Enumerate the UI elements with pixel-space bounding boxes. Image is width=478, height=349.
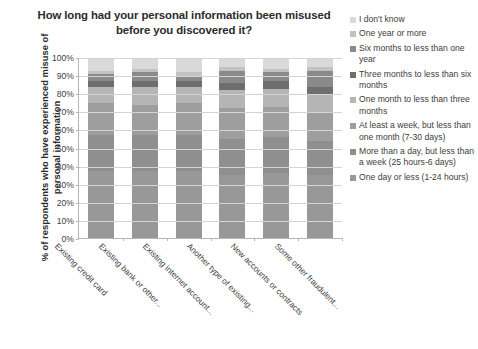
legend-swatch-icon <box>350 123 356 129</box>
legend-label: I don't know <box>359 14 405 25</box>
bar-segment[interactable] <box>307 94 333 112</box>
x-axis-tick-labels: Existing credit cardExisting bank or oth… <box>78 241 342 341</box>
bar-segment[interactable] <box>132 171 158 238</box>
gridline <box>79 58 342 59</box>
y-axis-tick-mark <box>76 221 79 222</box>
legend-swatch-icon <box>350 17 356 23</box>
chart-legend: I don't knowOne year or moreSix months t… <box>350 14 476 186</box>
y-axis-tick-label: 90% <box>57 71 74 81</box>
gridline <box>79 94 342 95</box>
x-axis-tick-mark <box>342 238 343 241</box>
legend-label: One year or more <box>359 28 426 39</box>
gridline <box>79 167 342 168</box>
bar-segment[interactable] <box>307 112 333 141</box>
legend-label: More than a day, but less than a week (2… <box>359 146 476 169</box>
gridline <box>79 149 342 150</box>
legend-swatch-icon <box>350 31 356 37</box>
plot-area <box>78 58 342 239</box>
legend-label: Three months to less than six months <box>359 69 476 92</box>
bar-segment[interactable] <box>307 71 333 87</box>
bar-segment[interactable] <box>219 139 245 175</box>
bar-segment[interactable] <box>88 58 114 71</box>
y-axis-tick-label: 10% <box>57 216 74 226</box>
y-axis-tick-mark <box>76 149 79 150</box>
legend-swatch-icon <box>350 97 356 103</box>
bar-segment[interactable] <box>176 58 202 72</box>
gridline <box>79 112 342 113</box>
y-axis-tick-mark <box>76 94 79 95</box>
bar-segment[interactable] <box>263 89 289 107</box>
y-axis-tick-label: 50% <box>57 144 74 154</box>
legend-label: One month to less than three months <box>359 94 476 117</box>
y-axis-tick-labels: 100%90%80%70%60%50%40%30%20%10%0% <box>46 58 74 239</box>
bar-segment[interactable] <box>219 90 245 108</box>
legend-swatch-icon <box>350 175 356 181</box>
y-axis-tick-label: 80% <box>57 89 74 99</box>
y-axis-tick-label: 0% <box>62 234 74 244</box>
bar-segment[interactable] <box>263 81 289 88</box>
y-axis-tick-label: 100% <box>52 53 74 63</box>
legend-item[interactable]: Three months to less than six months <box>350 69 476 92</box>
y-axis-tick-mark <box>76 239 79 240</box>
bar-segment[interactable] <box>263 107 289 138</box>
bar-segment[interactable] <box>132 87 158 105</box>
legend-swatch-icon <box>350 149 356 155</box>
legend-item[interactable]: At least a week, but less than one month… <box>350 120 476 143</box>
x-axis-tick-label: New accounts or contracts <box>229 241 305 317</box>
bar-segment[interactable] <box>263 137 289 173</box>
y-axis-tick-mark <box>76 185 79 186</box>
bar-segment[interactable] <box>219 83 245 90</box>
legend-item[interactable]: One year or more <box>350 28 476 39</box>
bar-segment[interactable] <box>176 171 202 238</box>
y-axis-tick-mark <box>76 76 79 77</box>
gridline <box>79 203 342 204</box>
y-axis-tick-mark <box>76 167 79 168</box>
legend-swatch-icon <box>350 72 356 78</box>
legend-swatch-icon <box>350 46 356 52</box>
gridline <box>79 221 342 222</box>
bar-segment[interactable] <box>263 173 289 238</box>
y-axis-tick-label: 20% <box>57 198 74 208</box>
gridline <box>79 76 342 77</box>
gridline <box>79 130 342 131</box>
y-axis-tick-mark <box>76 58 79 59</box>
y-axis-tick-label: 70% <box>57 107 74 117</box>
bar-segment[interactable] <box>307 87 333 94</box>
bar-segment[interactable] <box>88 171 114 238</box>
y-axis-tick-mark <box>76 203 79 204</box>
y-axis-tick-label: 40% <box>57 162 74 172</box>
y-axis-tick-mark <box>76 112 79 113</box>
legend-label: One day or less (1-24 hours) <box>359 172 468 183</box>
legend-label: At least a week, but less than one month… <box>359 120 476 143</box>
x-axis-tick-label: Existing internet account... <box>141 241 217 317</box>
bar-segment[interactable] <box>307 58 333 67</box>
bar-segment[interactable] <box>132 58 158 69</box>
bar-segment[interactable] <box>263 58 289 69</box>
chart-title: How long had your personal information b… <box>26 8 342 38</box>
gridline <box>79 185 342 186</box>
y-axis-tick-mark <box>76 130 79 131</box>
legend-label: Six months to less than one year <box>359 43 476 66</box>
bar-segment[interactable] <box>307 141 333 175</box>
legend-item[interactable]: More than a day, but less than a week (2… <box>350 146 476 169</box>
plot-wrapper: 100%90%80%70%60%50%40%30%20%10%0% <box>46 58 342 239</box>
chart-root: How long had your personal information b… <box>0 0 478 349</box>
y-axis-tick-label: 60% <box>57 125 74 135</box>
bar-segment[interactable] <box>219 58 245 67</box>
legend-item[interactable]: One day or less (1-24 hours) <box>350 172 476 183</box>
legend-item[interactable]: One month to less than three months <box>350 94 476 117</box>
legend-item[interactable]: I don't know <box>350 14 476 25</box>
y-axis-tick-label: 30% <box>57 180 74 190</box>
legend-item[interactable]: Six months to less than one year <box>350 43 476 66</box>
